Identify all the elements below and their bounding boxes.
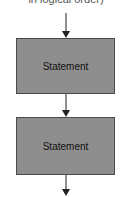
statement-label-2: Statement bbox=[43, 141, 89, 152]
statement-box-1: Statement bbox=[16, 38, 115, 94]
arrow-statement-2-exit bbox=[62, 175, 70, 196]
statement-box-2: Statement bbox=[16, 117, 115, 175]
arrow-entry-to-statement-1 bbox=[62, 13, 70, 38]
statement-label-1: Statement bbox=[43, 61, 89, 72]
arrow-statement-1-to-statement-2 bbox=[62, 94, 70, 117]
